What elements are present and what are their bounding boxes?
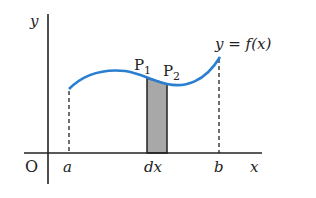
x-axis-label: x — [250, 158, 259, 176]
function-label: y = f(x) — [214, 35, 271, 53]
y-axis-label: y — [29, 12, 39, 30]
diagram-canvas: y O a dx b x P1 P2 y = f(x) — [0, 0, 316, 198]
a-label: a — [63, 158, 72, 176]
p1-label: P1 — [134, 56, 151, 77]
b-label: b — [214, 158, 224, 176]
origin-label: O — [25, 157, 38, 176]
p2-label: P2 — [163, 62, 180, 83]
dx-label: dx — [144, 158, 163, 176]
dx-strip — [147, 78, 167, 153]
